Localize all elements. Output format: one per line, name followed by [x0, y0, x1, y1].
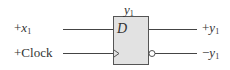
- inversion-bubble-icon: [149, 51, 155, 57]
- d-input-label: D: [117, 22, 127, 36]
- x1-input-label: +x1: [14, 21, 31, 39]
- y1-inverted-output-label: −y1: [202, 46, 219, 64]
- clock-input-label: +Clock: [14, 46, 52, 60]
- y1-output-label: +y1: [202, 21, 219, 39]
- block-title: y1: [124, 3, 134, 21]
